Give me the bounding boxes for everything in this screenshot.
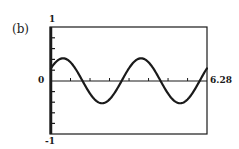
plot-area xyxy=(0,0,239,149)
